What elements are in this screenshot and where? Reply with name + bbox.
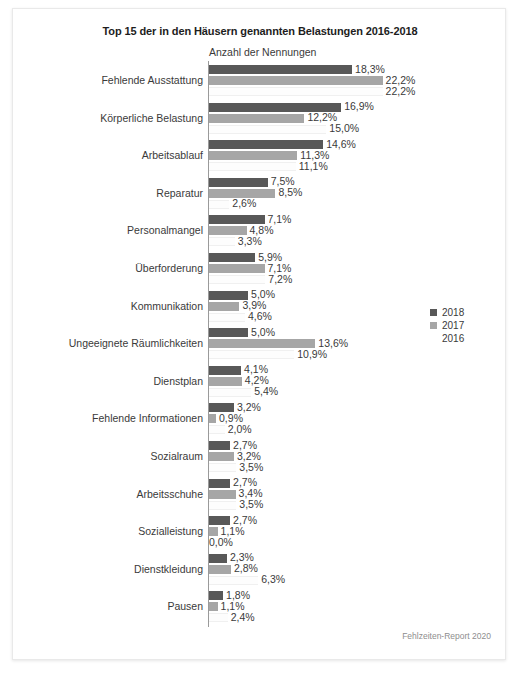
category-label: Sozialleistung <box>138 525 203 538</box>
bar-2016[interactable] <box>209 125 326 134</box>
bar-value-label: 2,6% <box>232 197 256 209</box>
category-label: Arbeitsablauf <box>142 149 203 162</box>
legend-label: 2016 <box>442 332 464 345</box>
bar-value-label: 3,5% <box>239 498 263 510</box>
bar-value-label: 15,0% <box>329 122 359 134</box>
bar-row: 7,5% <box>209 178 506 187</box>
bar-2016[interactable] <box>209 275 265 284</box>
bar-2017[interactable] <box>209 264 265 273</box>
bar-2016[interactable] <box>209 463 236 472</box>
bar-row: 7,2% <box>209 275 506 284</box>
bar-value-label: 14,6% <box>326 138 356 150</box>
category-label: Personalmangel <box>127 224 203 237</box>
bar-value-label: 5,0% <box>251 326 275 338</box>
bar-2018[interactable] <box>209 479 230 488</box>
bar-value-label: 5,4% <box>254 385 278 397</box>
bar-row: 22,2% <box>209 87 506 96</box>
bar-row: 5,4% <box>209 388 506 397</box>
category-label: Dienstkleidung <box>134 563 203 576</box>
bar-row: 0,0% <box>209 538 506 547</box>
bar-2018[interactable] <box>209 441 230 450</box>
bar-2016[interactable] <box>209 350 294 359</box>
bar-row: 2,7% <box>209 516 506 525</box>
bar-value-label: 22,2% <box>386 85 416 97</box>
bar-2018[interactable] <box>209 65 352 74</box>
bar-value-label: 2,0% <box>228 423 252 435</box>
bar-2016[interactable] <box>209 425 225 434</box>
bar-row: 3,2% <box>209 403 506 412</box>
bar-value-label: 2,4% <box>231 611 255 623</box>
legend-item-2016[interactable]: 2016 <box>430 332 464 345</box>
bar-2018[interactable] <box>209 253 255 262</box>
category-label: Sozialraum <box>150 450 203 463</box>
bar-row: 22,2% <box>209 76 506 85</box>
bar-value-label: 3,5% <box>239 461 263 473</box>
bar-2016[interactable] <box>209 200 229 209</box>
bar-2017[interactable] <box>209 76 383 85</box>
bar-row: 0,9% <box>209 414 506 423</box>
bar-row: 1,8% <box>209 591 506 600</box>
category-label: Fehlende Informationen <box>92 412 203 425</box>
legend-label: 2018 <box>442 306 464 319</box>
bar-value-label: 0,0% <box>209 536 233 548</box>
bar-group: Sozialleistung2,7%1,1%0,0% <box>13 514 506 551</box>
source-note: Fehlzeiten-Report 2020 <box>402 631 491 641</box>
bar-group: Fehlende Informationen3,2%0,9%2,0% <box>13 401 506 438</box>
bar-value-label: 11,1% <box>299 160 328 172</box>
category-label: Dienstplan <box>153 375 203 388</box>
bar-2017[interactable] <box>209 114 304 123</box>
category-label: Arbeitsschuhe <box>136 488 203 501</box>
bar-row: 5,9% <box>209 253 506 262</box>
bar-group: Pausen1,8%1,1%2,4% <box>13 589 506 626</box>
category-label: Kommunikation <box>131 300 203 313</box>
bar-2016[interactable] <box>209 501 236 510</box>
bar-2016[interactable] <box>209 388 251 397</box>
bar-row: 3,5% <box>209 501 506 510</box>
bar-row: 10,9% <box>209 350 506 359</box>
bar-2018[interactable] <box>209 328 248 337</box>
bar-row: 14,6% <box>209 140 506 149</box>
bar-row: 6,3% <box>209 576 506 585</box>
bar-2018[interactable] <box>209 366 241 375</box>
bar-group: Arbeitsschuhe2,7%3,4%3,5% <box>13 477 506 514</box>
bar-2016[interactable] <box>209 237 235 246</box>
bar-row: 1,1% <box>209 527 506 536</box>
bar-2018[interactable] <box>209 554 227 563</box>
bar-group: Körperliche Belastung16,9%12,2%15,0% <box>13 101 506 138</box>
legend-item-2017[interactable]: 2017 <box>430 319 464 332</box>
bar-group: Überforderung5,9%7,1%7,2% <box>13 251 506 288</box>
bar-row: 2,6% <box>209 200 506 209</box>
chart-title: Top 15 der in den Häusern genannten Bela… <box>13 25 506 37</box>
bar-value-label: 7,2% <box>268 273 292 285</box>
bar-value-label: 18,3% <box>355 63 385 75</box>
bar-2016[interactable] <box>209 313 245 322</box>
bar-group: Arbeitsablauf14,6%11,3%11,1% <box>13 138 506 175</box>
bar-value-label: 4,6% <box>248 310 272 322</box>
bar-2018[interactable] <box>209 178 268 187</box>
bar-row: 2,0% <box>209 425 506 434</box>
bar-group: Reparatur7,5%8,5%2,6% <box>13 176 506 213</box>
bar-2017[interactable] <box>209 302 239 311</box>
bar-2017[interactable] <box>209 452 234 461</box>
category-label: Pausen <box>167 600 203 613</box>
chart-legend: 201820172016 <box>430 306 464 345</box>
bar-2016[interactable] <box>209 613 228 622</box>
bar-row: 3,3% <box>209 237 506 246</box>
bar-2017[interactable] <box>209 602 218 611</box>
bar-2017[interactable] <box>209 377 242 386</box>
plot-area: Fehlende Ausstattung18,3%22,2%22,2%Körpe… <box>13 61 506 631</box>
legend-item-2018[interactable]: 2018 <box>430 306 464 319</box>
bar-2017[interactable] <box>209 414 216 423</box>
bar-2017[interactable] <box>209 565 231 574</box>
bar-2016[interactable] <box>209 162 296 171</box>
category-label: Reparatur <box>156 187 203 200</box>
bar-2017[interactable] <box>209 490 236 499</box>
bar-row: 15,0% <box>209 125 506 134</box>
legend-label: 2017 <box>442 319 464 332</box>
bar-2016[interactable] <box>209 87 383 96</box>
bar-value-label: 8,5% <box>278 186 302 198</box>
chart-card: Top 15 der in den Häusern genannten Bela… <box>12 8 506 660</box>
bar-2016[interactable] <box>209 576 258 585</box>
bar-2017[interactable] <box>209 151 297 160</box>
bar-row: 16,9% <box>209 103 506 112</box>
